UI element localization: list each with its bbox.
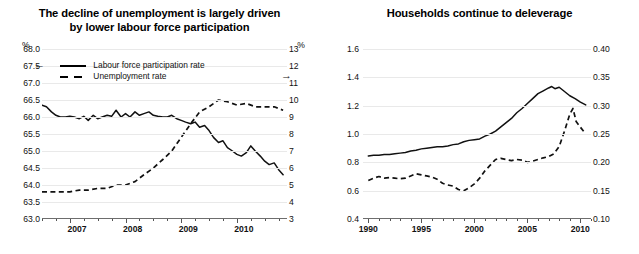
chart-legend-unemployment: ← Labour force participation rate Unempl…	[60, 60, 290, 82]
y-tick-label: 0.10	[593, 215, 610, 224]
legend-swatch-dashed	[60, 72, 86, 82]
x-tick-label: 2005	[518, 224, 537, 234]
y-tick-label: 63.0	[23, 215, 40, 224]
chart-panel-deleverage: Households continue to deleverage 1.6 1.…	[320, 0, 639, 254]
y-tick-label: 0.30	[593, 101, 610, 110]
y-tick-label: 0.15	[593, 186, 610, 195]
y-tick-label: 66.5	[23, 96, 40, 105]
chart-title-line2: by lower labour force participation	[0, 21, 319, 35]
x-tick-label: 2000	[465, 224, 484, 234]
left-y-axis-labels: 1.6 1.4 1.2 1.0 0.8 0.6 0.4	[329, 49, 359, 219]
legend-item: ← Labour force participation rate	[60, 60, 290, 71]
x-tick-label: 1995	[412, 224, 431, 234]
y-tick-label: 8	[289, 130, 294, 139]
x-tick-label: 1990	[359, 224, 378, 234]
y-tick-label: 0.20	[593, 158, 610, 167]
y-tick-label: 5	[289, 181, 294, 190]
y-tick-label: 4	[289, 198, 294, 207]
y-tick-label: 63.5	[23, 198, 40, 207]
y-tick-label: 1.4	[347, 73, 359, 82]
y-tick-label: 0.35	[593, 73, 610, 82]
y-tick-label: 0.40	[593, 45, 610, 54]
y-tick-label: 1.2	[347, 101, 359, 110]
y-tick-label: 64.5	[23, 164, 40, 173]
legend-item: Unemployment rate →	[60, 71, 290, 82]
x-tick-label: 2009	[179, 224, 198, 234]
y-tick-label: 64.0	[23, 181, 40, 190]
chart-title-line1: Households continue to deleverage	[387, 7, 573, 19]
y-tick-label: 67.0	[23, 79, 40, 88]
x-tick-label: 2010	[234, 224, 253, 234]
left-y-axis-labels: 68.0 67.5 67.0 66.5 66.0 65.5 65.0 64.5 …	[6, 49, 40, 219]
x-axis-labels: 1990 1995 2000 2005 2010	[363, 224, 591, 238]
chart-title-unemployment: The decline of unemployment is largely d…	[0, 7, 319, 34]
y-tick-label: 6	[289, 164, 294, 173]
legend-label: Labour force participation rate	[93, 60, 204, 71]
legend-swatch-solid	[60, 61, 86, 71]
x-tick-label: 2010	[571, 224, 590, 234]
chart-title-deleverage: Households continue to deleverage	[320, 7, 639, 21]
y-tick-label: 13	[289, 45, 299, 54]
y-tick-label: 9	[289, 113, 294, 122]
figure-canvas: The decline of unemployment is largely d…	[0, 0, 639, 254]
y-tick-label: 65.5	[23, 130, 40, 139]
y-tick-label: 0.8	[347, 158, 359, 167]
x-tick-label: 2008	[123, 224, 142, 234]
y-tick-label: 68.0	[23, 45, 40, 54]
y-tick-label: 0.25	[593, 130, 610, 139]
y-tick-label: 1.6	[347, 45, 359, 54]
x-axis-labels: 2007 2008 2009 2010	[42, 224, 287, 238]
gridlines	[363, 49, 591, 219]
y-tick-label: 0.4	[347, 215, 359, 224]
legend-label: Unemployment rate	[93, 71, 166, 82]
chart-title-line1: The decline of unemployment is largely d…	[39, 7, 281, 19]
y-tick-label: 0.6	[347, 186, 359, 195]
y-tick-label: 7	[289, 147, 294, 156]
right-y-axis-labels: 13 12 11 10 9 8 7 6 5 4 3	[289, 49, 319, 219]
y-tick-label: 65.0	[23, 147, 40, 156]
x-tick-label: 2007	[67, 224, 86, 234]
plot-area-deleverage	[363, 49, 591, 219]
y-tick-label: 66.0	[23, 113, 40, 122]
y-tick-label: 10	[289, 96, 299, 105]
y-tick-label: 1.0	[347, 130, 359, 139]
arrow-right-icon: →	[281, 70, 292, 81]
right-y-axis-labels: 0.40 0.35 0.30 0.25 0.20 0.15 0.10	[593, 49, 633, 219]
chart-panel-unemployment: The decline of unemployment is largely d…	[0, 0, 319, 254]
arrow-left-icon: ←	[34, 59, 45, 70]
y-tick-label: 3	[289, 215, 294, 224]
